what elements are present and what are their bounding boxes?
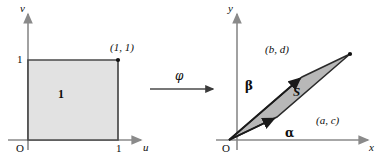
beta-endpoint-label: (b, d) [265, 44, 289, 55]
transformation-figure: v u O 1 1 (1, 1) 1 φ y x O S (b, d) β (a… [0, 0, 387, 166]
x-axis-label: x [369, 142, 374, 153]
y-axis-label: y [228, 3, 233, 14]
transformation-symbol: φ [175, 70, 183, 82]
unit-square-corner-label: (1, 1) [110, 42, 134, 53]
u-axis-label: u [143, 142, 149, 153]
v-axis-tick-one: 1 [17, 54, 23, 65]
unit-square-corner-dot [116, 58, 120, 62]
unit-square-region [28, 60, 118, 140]
right-origin-label: O [222, 143, 230, 154]
left-origin-label: O [16, 143, 24, 154]
unit-square-region-label: 1 [58, 88, 64, 100]
v-axis-label: v [20, 3, 25, 14]
beta-vector-symbol: β [245, 80, 253, 92]
alpha-vector-symbol: α [285, 127, 294, 139]
left-panel-graphics [8, 14, 141, 150]
parallelogram-far-corner-dot [348, 52, 352, 56]
figure-graphics [0, 0, 387, 166]
alpha-endpoint-label: (a, c) [316, 115, 339, 126]
parallelogram-region-label: S [293, 85, 300, 98]
u-axis-tick-one: 1 [116, 143, 122, 154]
